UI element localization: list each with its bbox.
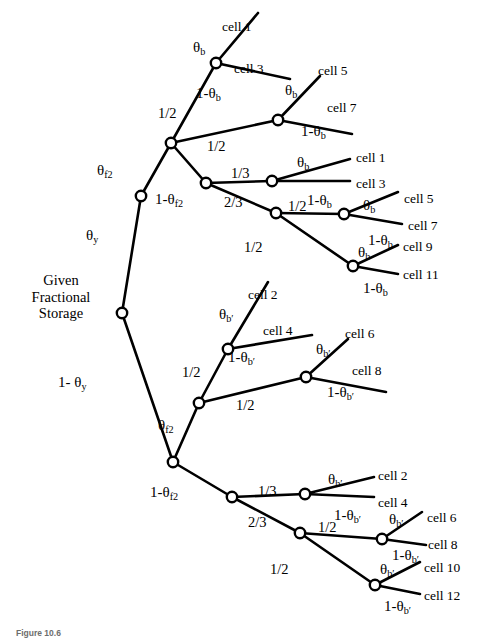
edge-label-lbl-1tb-5: 1-θb <box>363 281 388 298</box>
leaf-label-leaf-t5b: cell 11 <box>403 268 439 282</box>
edge-b4-half-up <box>300 533 382 539</box>
edge-label-base: 1-θ <box>327 384 347 400</box>
edge-label-subscript: b <box>365 251 370 262</box>
leaf-label-leaf-t1b: cell 3 <box>234 62 264 76</box>
root-label-line-2: Fractional <box>8 289 114 306</box>
edge-label-subscript: b′ <box>335 478 342 489</box>
edge-label-base: 1-θ <box>196 85 216 101</box>
edge-label-subscript: b <box>321 130 326 141</box>
edge-label-lbl-tb-4: θb <box>363 198 375 215</box>
edge-label-lbl-tb-5: θb <box>358 245 370 262</box>
edge-b5-notthetabp <box>375 585 420 594</box>
node-lower-notf2-third[interactable] <box>300 489 310 499</box>
edge-b3-notthetabp <box>305 494 374 497</box>
leaf-label-leaf-t2b: cell 7 <box>327 101 357 115</box>
edge-label-lbl-1tbp-2: 1-θb′ <box>327 385 354 402</box>
edge-label-subscript: f2 <box>104 169 113 180</box>
edge-label-subscript: b′ <box>387 568 394 579</box>
edge-thetay-notf2 <box>171 143 206 183</box>
edge-label-lbl-1tb-4: 1-θb <box>368 233 393 250</box>
node-lower-notf2[interactable] <box>227 492 237 502</box>
edge-notthetay-f2 <box>173 403 199 462</box>
node-lower-half-a[interactable] <box>377 534 387 544</box>
leaf-label-leaf-t5a: cell 9 <box>403 240 433 254</box>
node-theta-y[interactable] <box>136 191 146 201</box>
edge-label-lbl-theta-f2-top: θf2 <box>97 163 113 180</box>
edge-label-lbl-half-t3: 1/2 <box>288 199 307 214</box>
edge-label-lbl-1tb-1: 1-θb <box>196 86 221 103</box>
edge-label-base: 1- θ <box>58 374 81 390</box>
node-upper-f2-half-a[interactable] <box>211 58 221 68</box>
edge-label-subscript: b′ <box>396 518 403 529</box>
edge-label-subscript: b <box>370 204 375 215</box>
edge-label-lbl-half-t4: 1/2 <box>244 240 263 255</box>
edge-label-subscript: b′ <box>226 313 233 324</box>
leaf-label-leaf-t4a: cell 5 <box>404 192 434 206</box>
edge-label-lbl-1-theta-y: 1- θy <box>58 375 87 392</box>
edge-label-lbl-theta-f2-bot: θf2 <box>158 418 174 435</box>
leaf-label-leaf-t1a: cell 1 <box>222 20 252 34</box>
edge-t5-notthetab <box>353 266 398 274</box>
node-upper-notf2-third[interactable] <box>267 176 277 186</box>
edge-b4-notthetabp <box>382 539 426 545</box>
leaf-label-leaf-b5b: cell 12 <box>424 589 460 603</box>
edge-label-lbl-tbp-1: θb′ <box>219 307 234 324</box>
node-lower-f2[interactable] <box>168 457 178 467</box>
edge-label-subscript: b <box>292 89 297 100</box>
edge-label-lbl-half-b2: 1/2 <box>236 398 255 413</box>
edge-label-subscript: y <box>81 381 86 392</box>
root-label-line-3: Storage <box>8 305 114 322</box>
node-lower-f2-split[interactable] <box>194 398 204 408</box>
leaf-label-leaf-b1b: cell 4 <box>263 324 293 338</box>
edge-label-subscript: y <box>93 234 98 245</box>
edge-label-lbl-1tbp-5: 1-θb′ <box>384 599 411 616</box>
edge-root-not-theta-y <box>122 313 173 462</box>
edge-label-subscript: b′ <box>347 391 354 402</box>
node-upper-f2-half-b[interactable] <box>273 115 283 125</box>
root-label-line-1: Given <box>8 272 114 289</box>
edge-t4-half-up <box>276 213 344 214</box>
node-upper-f2[interactable] <box>166 138 176 148</box>
leaf-label-leaf-t3a: cell 1 <box>356 151 386 165</box>
edge-label-subscript: b <box>200 46 205 57</box>
edge-label-subscript: f2 <box>165 424 174 435</box>
edge-label-lbl-tbp-2: θb′ <box>316 342 331 359</box>
edge-label-base: 1-θ <box>307 192 327 208</box>
edge-label-lbl-1tb-3: 1-θb <box>307 193 332 210</box>
node-upper-half-b[interactable] <box>348 261 358 271</box>
leaf-label-leaf-t3b: cell 3 <box>356 177 386 191</box>
edge-label-subscript: b′ <box>354 514 361 525</box>
leaf-label-leaf-t2a: cell 5 <box>318 64 348 78</box>
node-root[interactable] <box>117 308 127 318</box>
edge-label-lbl-half-t1: 1/2 <box>158 106 177 121</box>
node-lower-half-b[interactable] <box>370 580 380 590</box>
edge-label-lbl-1tb-2: 1-θb <box>301 124 326 141</box>
leaf-label-leaf-b4b: cell 8 <box>428 538 458 552</box>
edge-label-lbl-1-theta-f2-bot: 1-θf2 <box>150 485 178 502</box>
edge-tf2-half-up <box>171 63 216 143</box>
node-upper-notf2-twothirds[interactable] <box>271 208 281 218</box>
edge-label-base: 1-θ <box>363 280 383 296</box>
leaf-label-leaf-b2b: cell 8 <box>352 364 382 378</box>
edge-label-subscript: b′ <box>404 605 411 616</box>
edge-label-lbl-tbp-4: θb′ <box>389 512 404 529</box>
node-lower-notf2-twothirds[interactable] <box>295 528 305 538</box>
edge-label-base: 1-θ <box>392 547 412 563</box>
root-label-given-fractional-storage: Given Fractional Storage <box>8 272 114 322</box>
edge-label-base: 1-θ <box>228 349 248 365</box>
edge-label-subscript: b′ <box>248 356 255 367</box>
edge-label-lbl-half-b4: 1/2 <box>270 562 289 577</box>
edge-t5-half-down <box>276 213 353 266</box>
edge-label-lbl-half-b1: 1/2 <box>182 365 201 380</box>
leaf-label-leaf-b3b: cell 4 <box>378 496 408 510</box>
edge-label-lbl-tbp-5: θb′ <box>380 562 395 579</box>
node-upper-notf2[interactable] <box>201 178 211 188</box>
node-upper-half-a[interactable] <box>339 209 349 219</box>
edge-label-lbl-tbp-3: θb′ <box>328 472 343 489</box>
edge-label-base: 1-θ <box>384 598 404 614</box>
edge-label-base: 1-θ <box>155 191 175 207</box>
figure-caption: Figure 10.6 <box>16 628 61 638</box>
edge-label-lbl-1tbp-1: 1-θb′ <box>228 350 255 367</box>
leaf-label-leaf-b3a: cell 2 <box>378 469 408 483</box>
node-lower-f2-half-b[interactable] <box>301 372 311 382</box>
